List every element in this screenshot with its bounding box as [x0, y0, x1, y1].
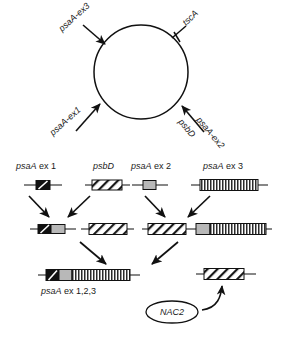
intermediate-transcript-2 — [81, 224, 134, 235]
row3-mature-transcripts: psaA ex 1,2,3 — [38, 269, 256, 297]
locus-label-psbD: psbD — [176, 116, 198, 140]
arrows-row1-to-row2 — [29, 196, 210, 217]
intermediate-transcript-3 — [142, 224, 272, 235]
genome-map: psaA-ex3 tscA psaA-ex1 psaA-ex2 psbD — [47, 1, 227, 151]
locus-tscA: tscA — [172, 8, 200, 42]
locus-psaA-ex3: psaA-ex3 — [56, 1, 105, 44]
transcript-psbD — [85, 180, 130, 190]
locus-psaA-ex2: psaA-ex2 psbD — [176, 106, 227, 150]
locus-label-tscA: tscA — [180, 8, 200, 27]
label-psaA-ex-3: psaA ex 3 — [202, 161, 243, 171]
intermediate-transcript-1 — [30, 225, 76, 234]
locus-label-psaA-ex1: psaA-ex1 — [47, 105, 83, 139]
transcript-psaA-ex-3 — [191, 180, 268, 191]
label-psaA-ex-123: psaA ex 1,2,3 — [40, 286, 96, 296]
locus-label-psaA-ex2: psaA-ex2 — [194, 114, 227, 150]
label-psaA-ex-2: psaA ex 2 — [130, 161, 171, 171]
label-psaA-ex-1: psaA ex 1 — [15, 161, 56, 171]
mature-transcript-psaA-ex-123: psaA ex 1,2,3 — [38, 270, 140, 297]
transcript-psaA-ex-2 — [132, 181, 168, 190]
arrow-ex1-down — [29, 196, 49, 217]
released-transcript-psbD — [196, 269, 256, 280]
arrow-ex2-down — [145, 196, 165, 217]
figure-canvas: psaA-ex3 tscA psaA-ex1 psaA-ex2 psbD psa… — [0, 0, 285, 339]
transcript-psaA-ex-1 — [24, 181, 62, 190]
arrow-psbD-down-left — [68, 196, 90, 217]
locus-label-psaA-ex3: psaA-ex3 — [56, 1, 92, 35]
chloroplast-genome-circle — [94, 25, 188, 119]
arrow-intermediate3-down-left — [152, 242, 178, 264]
arrow-intermediate1-down — [80, 242, 106, 264]
nac2-label: NAC2 — [160, 307, 184, 317]
diagram-svg: psaA-ex3 tscA psaA-ex1 psaA-ex2 psbD psa… — [0, 0, 285, 339]
nac2-factor: NAC2 — [146, 286, 222, 323]
row2-intermediate-transcripts — [30, 224, 272, 235]
label-psbD: psbD — [92, 161, 115, 171]
arrows-row2-to-row3 — [80, 242, 178, 264]
arrow-ex3-down-left — [188, 196, 210, 217]
row1-primary-transcripts: psaA ex 1 psbD psaA ex 2 psaA ex 3 — [15, 161, 268, 191]
locus-psaA-ex1: psaA-ex1 — [47, 104, 100, 138]
nac2-curved-arrow — [202, 286, 222, 310]
